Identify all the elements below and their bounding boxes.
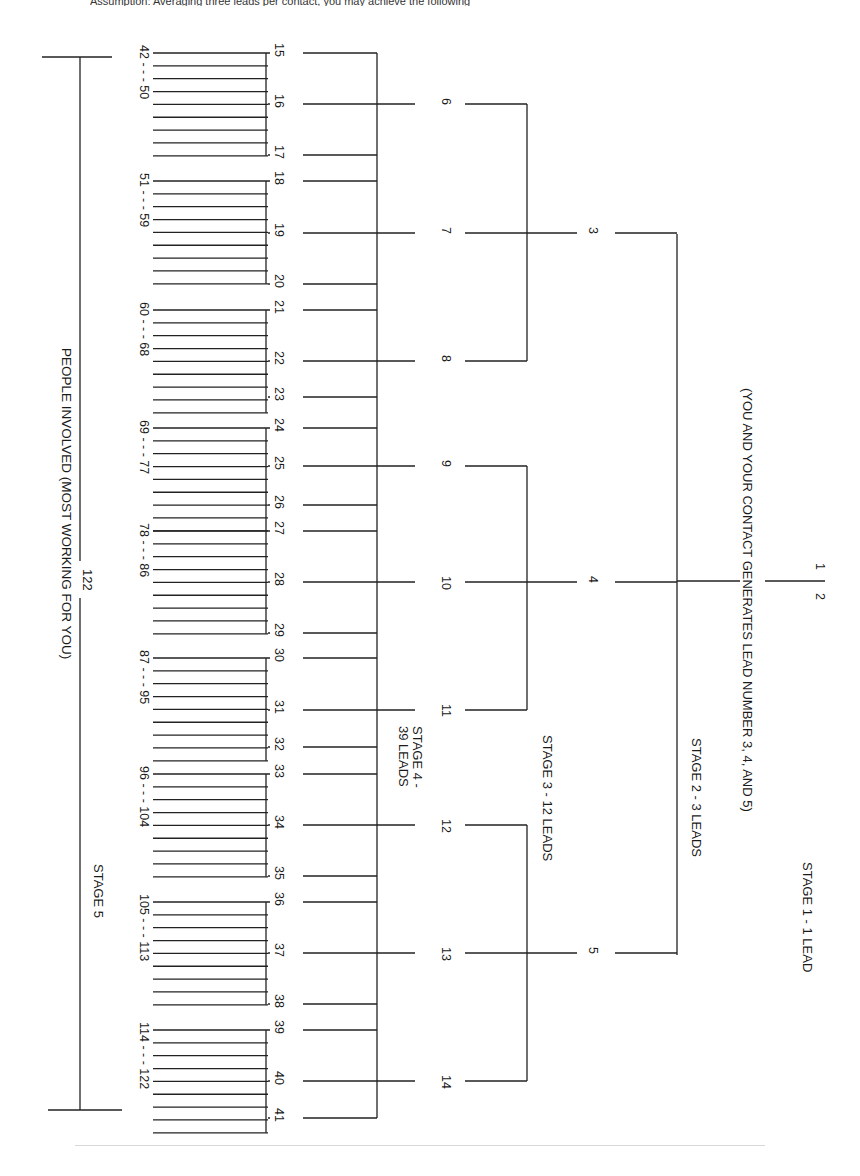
- stage4-label-line2: 39 LEADS: [397, 726, 410, 787]
- stage3-node-12: 12: [440, 819, 453, 833]
- stage5-range-label: 78 - - - 86: [138, 523, 151, 577]
- stage3-node-14: 14: [440, 1075, 453, 1089]
- stage3-node-11: 11: [440, 704, 453, 717]
- total-people-label: PEOPLE INVOLVED (MOST WORKING FOR YOU): [60, 348, 74, 659]
- total-count: 122: [81, 569, 94, 591]
- stage4-node-30: 30: [273, 648, 286, 662]
- stage5-range-label: 87 - - - 95: [138, 650, 151, 704]
- stage4-node-20: 20: [273, 274, 286, 288]
- stage3-node-6: 6: [440, 98, 453, 105]
- stage4-node-41: 41: [273, 1108, 286, 1122]
- stage3-node-13: 13: [440, 947, 453, 961]
- stage4-node-33: 33: [273, 764, 286, 778]
- stage5-range-label: 105 - - - 113: [138, 894, 151, 961]
- stage4-node-31: 31: [273, 700, 286, 714]
- stage4-node-22: 22: [273, 351, 286, 365]
- stage4-node-23: 23: [273, 387, 286, 401]
- stage1-node-2: 2: [814, 593, 827, 600]
- stage4-node-39: 39: [273, 1020, 286, 1034]
- stage4-label-line1: STAGE 4 -: [411, 726, 424, 788]
- stage4-node-40: 40: [273, 1071, 286, 1085]
- stage4-node-18: 18: [273, 171, 286, 185]
- stage4-node-26: 26: [273, 495, 286, 509]
- stage3-label: STAGE 3 - 12 LEADS: [541, 735, 554, 861]
- stage5-range-label: 69 - - - 77: [138, 420, 151, 474]
- stage4-node-32: 32: [273, 737, 286, 751]
- stage2-node-5: 5: [587, 947, 600, 954]
- stage5-range-label: 51 - - - 59: [138, 173, 151, 227]
- stage4-node-16: 16: [273, 94, 286, 108]
- stage2-node-4: 4: [587, 576, 600, 583]
- stage3-node-9: 9: [440, 460, 453, 467]
- stage4-node-21: 21: [273, 300, 286, 314]
- stage5-range-label: 60 - - - 68: [138, 302, 151, 356]
- stage1-label: STAGE 1 - 1 LEAD: [801, 862, 814, 972]
- stage4-node-25: 25: [273, 456, 286, 470]
- stage2-label: STAGE 2 - 3 LEADS: [690, 738, 703, 857]
- stage4-node-27: 27: [273, 521, 286, 535]
- stage3-node-10: 10: [440, 576, 453, 590]
- stage3-node-8: 8: [440, 355, 453, 362]
- stage4-node-15: 15: [273, 43, 286, 57]
- stage4-node-24: 24: [273, 418, 286, 432]
- stage4-node-36: 36: [273, 892, 286, 906]
- stage2-node-3: 3: [587, 227, 600, 234]
- stage5-range-label: 96 - - - 104: [138, 766, 151, 827]
- stage1-node-1: 1: [814, 563, 827, 570]
- stage5-label: STAGE 5: [92, 864, 105, 918]
- stage3-node-7: 7: [440, 227, 453, 234]
- stage4-node-38: 38: [273, 994, 286, 1008]
- stage1-note: (YOU AND YOUR CONTACT GENERATES LEAD NUM…: [741, 388, 754, 812]
- stage5-range-label: 114 - - - 122: [138, 1022, 151, 1089]
- stage4-node-35: 35: [273, 866, 286, 880]
- stage4-node-19: 19: [273, 223, 286, 237]
- stage4-node-29: 29: [273, 623, 286, 637]
- tree-diagram-lines: [0, 0, 860, 1176]
- stage4-node-37: 37: [273, 943, 286, 957]
- stage4-node-28: 28: [273, 572, 286, 586]
- stage4-node-17: 17: [273, 145, 286, 159]
- stage4-node-34: 34: [273, 815, 286, 829]
- stage5-range-label: 42 - - - 50: [138, 45, 151, 99]
- page-divider: [75, 1145, 765, 1146]
